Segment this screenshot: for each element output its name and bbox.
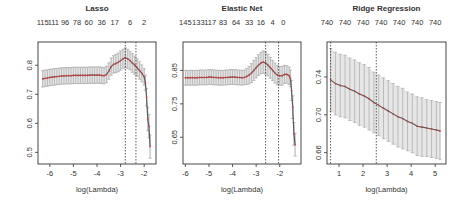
data-point <box>68 75 70 77</box>
data-point <box>189 77 191 79</box>
data-point <box>187 77 189 79</box>
top-count-label: 0 <box>281 18 285 27</box>
data-point <box>239 77 241 79</box>
top-count-label: 740 <box>429 18 442 27</box>
data-point <box>51 76 53 78</box>
data-point <box>274 72 276 74</box>
data-point <box>435 129 437 131</box>
data-point <box>213 77 215 79</box>
data-point <box>203 77 205 79</box>
data-point <box>91 74 93 76</box>
data-point <box>49 77 51 79</box>
data-point <box>113 63 115 65</box>
data-point <box>262 61 264 63</box>
data-point <box>103 75 105 77</box>
x-tick-label: 5 <box>433 169 437 178</box>
data-point <box>210 76 212 78</box>
data-point <box>294 144 296 146</box>
x-tick-label: -6 <box>182 169 189 178</box>
x-tick-label: -2 <box>276 169 283 178</box>
data-point <box>279 75 281 77</box>
x-tick-label: -2 <box>141 169 148 178</box>
data-point <box>144 82 146 84</box>
x-tick-label: 3 <box>385 169 389 178</box>
data-point <box>120 60 122 62</box>
data-point <box>426 127 428 129</box>
data-point <box>373 102 375 104</box>
data-point <box>335 83 337 85</box>
data-point <box>411 122 413 124</box>
data-point <box>293 133 295 135</box>
data-point <box>194 77 196 79</box>
data-point <box>122 58 124 60</box>
top-count-label: 740 <box>339 18 352 27</box>
data-point <box>110 66 112 68</box>
data-point <box>196 77 198 79</box>
chart-title: Ridge Regression <box>352 4 420 13</box>
top-count-label: 33 <box>245 18 253 27</box>
data-point <box>208 76 210 78</box>
top-count-label: 36 <box>98 18 106 27</box>
data-point <box>115 63 117 65</box>
data-point <box>89 74 91 76</box>
top-count-label: 111 <box>48 18 59 27</box>
data-point <box>75 75 77 77</box>
data-point <box>243 77 245 79</box>
data-point <box>54 76 56 78</box>
x-axis-label: log(Lambda) <box>221 185 264 194</box>
data-point <box>80 75 82 77</box>
data-point <box>349 88 351 90</box>
data-point <box>241 77 243 79</box>
data-point <box>132 62 134 64</box>
data-point <box>344 86 346 88</box>
data-point <box>284 74 286 76</box>
error-bars <box>329 49 442 160</box>
data-point <box>199 77 201 79</box>
top-count-label: 78 <box>73 18 81 27</box>
data-point <box>56 76 58 78</box>
data-point <box>61 75 63 77</box>
top-count-label: 17 <box>111 18 119 27</box>
data-point <box>236 77 238 79</box>
top-count-label: 4 <box>271 18 275 27</box>
data-point <box>147 118 149 120</box>
top-count-label: 740 <box>321 18 334 27</box>
top-count-label: 6 <box>128 18 132 27</box>
data-point <box>94 74 96 76</box>
chart-title: Lasso <box>85 4 108 13</box>
data-point <box>248 74 250 76</box>
top-count-label: 133 <box>192 18 205 27</box>
data-point <box>246 76 248 78</box>
data-point <box>234 76 236 78</box>
data-point <box>402 118 404 120</box>
data-point <box>108 70 110 72</box>
data-point <box>281 75 283 77</box>
x-tick-label: 2 <box>361 169 365 178</box>
y-tick-label: 0.66 <box>314 145 323 160</box>
x-tick-label: -4 <box>229 169 236 178</box>
data-point <box>260 62 262 64</box>
y-tick-label: 0.85 <box>170 63 179 78</box>
error-bars <box>41 48 152 158</box>
data-point <box>82 75 84 77</box>
top-count-label: 740 <box>357 18 370 27</box>
data-point <box>134 64 136 66</box>
data-point <box>292 106 294 108</box>
data-point <box>269 67 271 69</box>
y-tick-label: 0.70 <box>314 108 323 123</box>
data-point <box>272 70 274 72</box>
top-count-label: 740 <box>393 18 406 27</box>
data-point <box>288 75 290 77</box>
data-point <box>65 75 67 77</box>
data-point <box>363 95 365 97</box>
top-count-label: 16 <box>257 18 265 27</box>
data-point <box>222 77 224 79</box>
top-count-label: 64 <box>232 18 240 27</box>
data-point <box>220 77 222 79</box>
data-point <box>339 85 341 87</box>
data-point <box>44 77 46 79</box>
data-point <box>258 64 260 66</box>
data-point <box>106 74 108 76</box>
top-count-label: 740 <box>375 18 388 27</box>
data-point <box>98 74 100 76</box>
